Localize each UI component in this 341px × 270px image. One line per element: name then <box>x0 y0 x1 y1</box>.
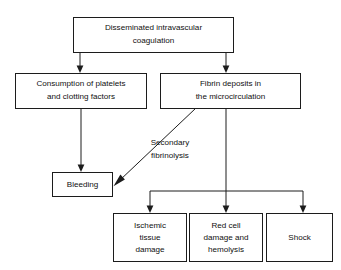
node-ischemic-line-1: Ischemic <box>134 221 166 230</box>
edge-label-secondary-fibrinolysis-line-1: Secondary <box>151 138 191 147</box>
node-bleeding-line-1: Bleeding <box>67 180 99 189</box>
node-redcell-line-2: damage and <box>203 233 248 242</box>
node-fibrin-line-2: the microcirculation <box>196 92 266 101</box>
node-shock: Shock <box>267 214 333 262</box>
node-consumption-line-1: Consumption of platelets <box>36 79 125 88</box>
node-ischemic-tissue-damage: Ischemic tissue damage <box>114 214 187 262</box>
flowchart-diagram: Disseminated intravascular coagulation C… <box>0 0 341 270</box>
node-consumption-line-2: and clotting factors <box>47 92 115 101</box>
node-ischemic-line-3: damage <box>135 245 165 254</box>
node-shock-line-1: Shock <box>288 233 311 242</box>
node-bleeding: Bleeding <box>53 173 113 197</box>
node-dic-line-1: Disseminated intravascular <box>105 23 202 32</box>
node-dic-line-2: coagulation <box>133 36 174 45</box>
edge-dic-to-fibrin <box>223 52 230 73</box>
edge-label-secondary-fibrinolysis: Secondary fibrinolysis <box>151 138 191 160</box>
edge-fibrin-to-outcomes-bus <box>147 108 307 213</box>
edge-consumption-to-bleeding <box>78 108 85 172</box>
node-red-cell-damage-and-hemolysis: Red cell damage and hemolysis <box>190 214 263 262</box>
edge-dic-to-consumption <box>77 52 84 73</box>
flowchart-canvas: Disseminated intravascular coagulation C… <box>0 0 341 270</box>
node-consumption-of-platelets: Consumption of platelets and clotting fa… <box>16 74 147 109</box>
node-fibrin-line-1: Fibrin deposits in <box>200 79 261 88</box>
node-disseminated-intravascular-coagulation: Disseminated intravascular coagulation <box>74 18 234 53</box>
edge-label-secondary-fibrinolysis-line-2: fibrinolysis <box>151 151 189 160</box>
node-fibrin-deposits: Fibrin deposits in the microcirculation <box>161 74 301 109</box>
node-redcell-line-3: hemolysis <box>208 245 244 254</box>
node-redcell-line-1: Red cell <box>211 221 240 230</box>
node-ischemic-line-2: tissue <box>139 233 161 242</box>
